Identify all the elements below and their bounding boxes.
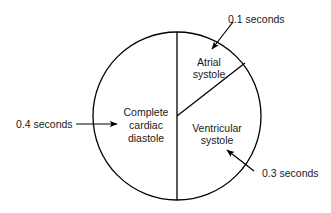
diastole-label-line3: diastole: [128, 132, 164, 144]
ventricular-systole-label-line2: systole: [201, 134, 234, 146]
atrial-systole-label-line1: Atrial: [197, 56, 221, 68]
atrial-systole-label-line2: systole: [193, 68, 226, 80]
diastole-label-line1: Complete: [124, 106, 169, 118]
diastole-duration-label: 0.4 seconds: [16, 118, 73, 130]
ventricular-duration-label: 0.3 seconds: [262, 167, 319, 179]
ventricular-systole-label-line1: Ventricular: [192, 122, 242, 134]
cardiac-cycle-pie-chart: 0.1 seconds 0.3 seconds 0.4 seconds Atri…: [0, 0, 331, 213]
atrial-duration-label: 0.1 seconds: [228, 13, 285, 25]
diastole-label-line2: cardiac: [129, 119, 163, 131]
cardiac-cycle-diagram: 0.1 seconds 0.3 seconds 0.4 seconds Atri…: [0, 0, 331, 213]
